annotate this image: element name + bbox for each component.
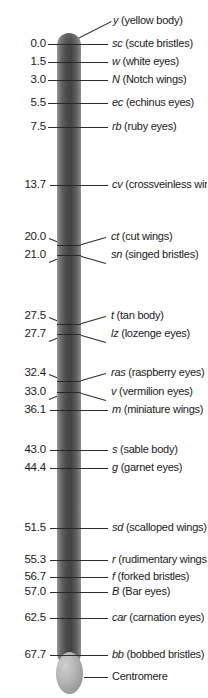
gene-phenotype-ras: (raspberry eyes) bbox=[126, 366, 205, 378]
position-label-1: 1.5 bbox=[2, 55, 46, 67]
gene-label-g: g (garnet eyes) bbox=[112, 461, 182, 473]
gene-symbol-N: N bbox=[112, 73, 120, 85]
tick-through-7 bbox=[57, 255, 81, 256]
tick-right-19 bbox=[80, 618, 108, 619]
tick-through-19 bbox=[57, 618, 81, 619]
leader-line-t-right bbox=[78, 316, 106, 325]
gene-phenotype-cv: (crossveinless wings) bbox=[123, 178, 208, 190]
gene-label-r: r (rudimentary wings) bbox=[112, 553, 207, 565]
tick-right-3 bbox=[80, 103, 108, 104]
gene-phenotype-s: (sable body) bbox=[117, 443, 177, 455]
gene-phenotype-rb: (ruby eyes) bbox=[121, 120, 176, 132]
gene-symbol-sn: sn bbox=[111, 248, 122, 260]
tick-right-13 bbox=[80, 450, 108, 451]
gene-label-sn: sn (singed bristles) bbox=[111, 248, 198, 260]
gene-phenotype-sc: (scute bristles) bbox=[123, 37, 193, 49]
position-label-13: 43.0 bbox=[2, 443, 46, 455]
leader-line-y bbox=[74, 21, 112, 41]
gene-phenotype-v: (vermilion eyes) bbox=[116, 385, 192, 397]
position-label-15: 51.5 bbox=[2, 521, 46, 533]
leader-line-ras-right bbox=[78, 373, 106, 382]
position-label-3: 5.5 bbox=[2, 96, 46, 108]
position-label-17: 56.7 bbox=[2, 570, 46, 582]
leader-line-centromere bbox=[84, 677, 108, 678]
gene-phenotype-ec: (echinus eyes) bbox=[123, 96, 194, 108]
position-label-20: 67.7 bbox=[2, 648, 46, 660]
gene-phenotype-bb: (bobbed bristles) bbox=[124, 648, 205, 660]
gene-label-w: w (white eyes) bbox=[112, 55, 179, 67]
position-label-10: 32.4 bbox=[2, 366, 46, 378]
gene-label-s: s (sable body) bbox=[112, 443, 178, 455]
tick-right-12 bbox=[80, 410, 108, 411]
tick-right-17 bbox=[80, 577, 108, 578]
gene-symbol-cv: cv bbox=[112, 178, 123, 190]
gene-label-y: y (yellow body) bbox=[113, 14, 183, 26]
position-label-8: 27.5 bbox=[2, 309, 46, 321]
gene-phenotype-m: (miniature wings) bbox=[121, 403, 203, 415]
gene-phenotype-N: (Notch wings) bbox=[120, 73, 187, 85]
position-label-18: 57.0 bbox=[2, 585, 46, 597]
gene-symbol-sd: sd bbox=[112, 521, 123, 533]
position-label-16: 55.3 bbox=[2, 553, 46, 565]
gene-phenotype-f: (forked bristles) bbox=[115, 570, 189, 582]
tick-through-2 bbox=[57, 80, 81, 81]
gene-label-f: f (forked bristles) bbox=[112, 570, 189, 582]
tick-right-15 bbox=[80, 528, 108, 529]
leader-line-sn-right bbox=[78, 255, 106, 264]
tick-right-1 bbox=[80, 62, 108, 63]
position-label-0: 0.0 bbox=[2, 37, 46, 49]
position-label-11: 33.0 bbox=[2, 385, 46, 397]
gene-phenotype-lz: (lozenge eyes) bbox=[118, 327, 189, 339]
gene-phenotype-sd: (scalloped wings) bbox=[123, 521, 207, 533]
gene-phenotype-car: (carnation eyes) bbox=[127, 611, 205, 623]
tick-through-12 bbox=[57, 410, 81, 411]
tick-through-10 bbox=[57, 381, 81, 382]
tick-through-6 bbox=[57, 245, 81, 246]
tick-right-16 bbox=[80, 560, 108, 561]
gene-label-B: B (Bar eyes) bbox=[112, 585, 170, 597]
tick-right-14 bbox=[80, 468, 108, 469]
tick-through-8 bbox=[57, 324, 81, 325]
gene-phenotype-r: (rudimentary wings) bbox=[115, 553, 207, 565]
gene-label-rb: rb (ruby eyes) bbox=[112, 120, 176, 132]
gene-label-cv: cv (crossveinless wings) bbox=[112, 178, 207, 190]
tick-right-0 bbox=[80, 44, 108, 45]
position-label-6: 20.0 bbox=[2, 230, 46, 242]
tick-through-15 bbox=[57, 528, 81, 529]
gene-label-v: v (vermilion eyes) bbox=[111, 385, 193, 397]
tick-through-13 bbox=[57, 450, 81, 451]
tick-right-4 bbox=[80, 127, 108, 128]
gene-phenotype-w: (white eyes) bbox=[120, 55, 179, 67]
tick-through-20 bbox=[57, 655, 81, 656]
leader-line-v-right bbox=[78, 392, 106, 401]
tick-through-16 bbox=[57, 560, 81, 561]
position-label-12: 36.1 bbox=[2, 403, 46, 415]
gene-symbol-ras: ras bbox=[111, 366, 126, 378]
tick-through-17 bbox=[57, 577, 81, 578]
gene-symbol-bb: bb bbox=[112, 648, 124, 660]
gene-label-ec: ec (echinus eyes) bbox=[112, 96, 194, 108]
gene-phenotype-sn: (singed bristles) bbox=[122, 248, 198, 260]
tick-right-20 bbox=[80, 655, 108, 656]
position-label-9: 27.7 bbox=[2, 327, 46, 339]
gene-phenotype-y: (yellow body) bbox=[118, 14, 182, 26]
gene-label-bb: bb (bobbed bristles) bbox=[112, 648, 204, 660]
gene-label-N: N (Notch wings) bbox=[112, 73, 187, 85]
centromere-label-text: Centromere bbox=[112, 670, 168, 682]
leader-line-ct-right bbox=[78, 237, 106, 246]
gene-symbol-car: car bbox=[112, 611, 127, 623]
position-label-19: 62.5 bbox=[2, 611, 46, 623]
tick-through-14 bbox=[57, 468, 81, 469]
tick-through-5 bbox=[57, 185, 81, 186]
gene-label-m: m (miniature wings) bbox=[112, 403, 203, 415]
gene-symbol-m: m bbox=[112, 403, 121, 415]
gene-label-ras: ras (raspberry eyes) bbox=[111, 366, 204, 378]
gene-phenotype-B: (Bar eyes) bbox=[119, 585, 170, 597]
gene-label-car: car (carnation eyes) bbox=[112, 611, 204, 623]
gene-label-sd: sd (scalloped wings) bbox=[112, 521, 207, 533]
gene-phenotype-t: (tan body) bbox=[114, 309, 164, 321]
leader-line-lz-right bbox=[78, 334, 106, 343]
position-label-4: 7.5 bbox=[2, 120, 46, 132]
position-label-7: 21.0 bbox=[2, 248, 46, 260]
centromere-label: Centromere bbox=[112, 670, 168, 682]
